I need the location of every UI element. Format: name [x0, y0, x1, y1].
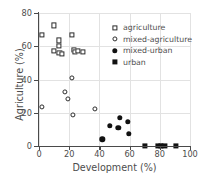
data-point-agriculture — [59, 51, 64, 56]
y-tick — [34, 13, 38, 14]
legend-marker-open-square-icon — [110, 22, 120, 33]
scatter-chart-figure: 020406080 020406080100 Development (%) A… — [0, 0, 208, 184]
legend-label: urban — [123, 58, 146, 67]
data-point-mixed-urban — [117, 115, 122, 120]
data-point-agriculture — [80, 49, 85, 54]
chart-legend: agriculturemixed-agriculturemixed-urbanu… — [110, 22, 206, 68]
x-tick-label: 80 — [155, 149, 165, 159]
data-point-agriculture — [52, 23, 57, 28]
legend-label: agriculture — [123, 23, 165, 32]
data-point-mixed-agriculture — [70, 113, 75, 118]
data-point-mixed-agriculture — [39, 104, 44, 109]
x-tick-label: 40 — [94, 149, 104, 159]
data-point-mixed-urban — [100, 137, 105, 142]
y-tick-label: 80 — [22, 8, 32, 18]
legend-marker-filled-circle-icon — [110, 45, 120, 56]
legend-marker-open-circle-icon — [110, 34, 120, 45]
y-tick — [34, 146, 38, 147]
data-point-agriculture — [56, 38, 61, 43]
data-point-agriculture — [56, 44, 61, 49]
y-axis-spine — [38, 12, 39, 147]
legend-item-urban[interactable]: urban — [110, 57, 206, 69]
gridline-horizontal — [39, 80, 190, 81]
data-point-agriculture — [70, 32, 75, 37]
y-tick — [34, 80, 38, 81]
x-tick-label: 20 — [64, 149, 74, 159]
y-axis-title: Agriculture (%) — [14, 25, 25, 145]
data-point-mixed-agriculture — [92, 106, 97, 111]
legend-item-agriculture[interactable]: agriculture — [110, 22, 206, 34]
data-point-agriculture — [39, 32, 44, 37]
data-point-mixed-agriculture — [62, 89, 67, 94]
legend-item-mixed-urban[interactable]: mixed-urban — [110, 45, 206, 57]
x-tick-label: 100 — [182, 149, 198, 159]
gridline-horizontal — [39, 113, 190, 114]
x-axis-spine — [38, 146, 191, 147]
data-point-mixed-urban — [116, 125, 121, 130]
y-tick — [34, 113, 38, 114]
gridline-horizontal — [39, 13, 190, 14]
y-tick-label: 0 — [27, 141, 32, 151]
legend-label: mixed-agriculture — [123, 35, 192, 44]
x-tick-label: 0 — [36, 149, 41, 159]
legend-item-mixed-agriculture[interactable]: mixed-agriculture — [110, 34, 206, 46]
x-axis-title: Development (%) — [39, 162, 190, 173]
data-point-mixed-urban — [126, 131, 131, 136]
legend-marker-filled-square-icon — [110, 57, 120, 68]
legend-label: mixed-urban — [123, 46, 173, 55]
data-point-mixed-urban — [107, 123, 112, 128]
x-tick-label: 60 — [124, 149, 134, 159]
y-tick — [34, 46, 38, 47]
